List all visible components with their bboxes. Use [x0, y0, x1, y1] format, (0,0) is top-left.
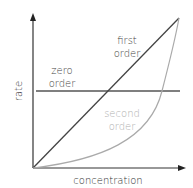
x-axis-arrow-icon — [178, 165, 186, 171]
zero-order-label-2: order — [49, 78, 77, 89]
zero-order-label-1: zero — [51, 65, 72, 76]
first-order-line — [33, 18, 179, 168]
rate-vs-concentration-chart: first order zero order second order conc… — [0, 0, 193, 188]
y-axis-label: rate — [13, 81, 24, 101]
first-order-label-2: order — [114, 48, 142, 59]
x-axis-label: concentration — [73, 175, 142, 186]
first-order-label-1: first — [117, 35, 137, 46]
y-axis-arrow-icon — [30, 13, 36, 21]
second-order-label-1: second — [104, 108, 140, 119]
second-order-label-2: order — [109, 121, 137, 132]
